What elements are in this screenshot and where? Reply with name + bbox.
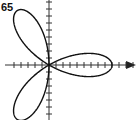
polar-rose-chart [0,0,137,120]
x-axis-arrow-icon [126,61,136,69]
axes [5,0,136,120]
